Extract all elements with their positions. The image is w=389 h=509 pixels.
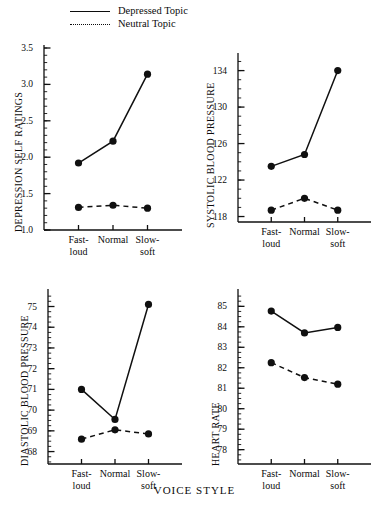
data-point <box>75 159 82 166</box>
plot-area-diastolic-blood-pressure <box>40 288 188 470</box>
chart-panel-systolic-blood-pressure: 118122126130134Fast- loudNormalSlow- sof… <box>238 56 371 222</box>
y-tick-label: 81 <box>197 383 227 393</box>
data-point <box>75 204 82 211</box>
data-point <box>111 416 118 423</box>
data-point <box>334 207 341 214</box>
y-tick-label: 134 <box>197 66 227 76</box>
y-tick-label: 75 <box>7 302 37 312</box>
data-point <box>334 324 341 331</box>
data-point <box>268 307 275 314</box>
data-point <box>268 163 275 170</box>
data-point <box>145 430 152 437</box>
plot-area-depression-self-ratings <box>36 44 188 236</box>
legend-key-depressed-icon <box>68 6 112 16</box>
data-point <box>301 374 308 381</box>
plot-area-heart-rate <box>230 288 377 470</box>
data-point <box>268 207 275 214</box>
data-point <box>301 329 308 336</box>
chart-panel-depression-self-ratings: 1.01.52.02.53.03.5Fast- loudNormalSlow- … <box>44 48 182 230</box>
y-tick-label: 83 <box>197 342 227 352</box>
y-tick-label: 3.0 <box>3 79 33 89</box>
y-tick-label: 85 <box>197 301 227 311</box>
data-point <box>144 205 151 212</box>
x-tick-label: Slow- soft <box>118 234 178 257</box>
data-point <box>334 381 341 388</box>
data-point <box>334 67 341 74</box>
data-point <box>78 436 85 443</box>
data-point <box>109 138 116 145</box>
chart-panel-diastolic-blood-pressure: 6869707172737475Fast- loudNormalSlow- so… <box>48 292 182 464</box>
series-line-depressed-topic <box>79 74 148 163</box>
legend-label-depressed: Depressed Topic <box>112 5 188 17</box>
y-axis-title-systolic-blood-pressure: SYSTOLIC BLOOD PRESSURE <box>206 82 216 228</box>
legend-label-neutral: Neutral Topic <box>112 18 176 30</box>
plot-area-systolic-blood-pressure <box>230 52 377 228</box>
legend-item-neutral: Neutral Topic <box>68 17 248 30</box>
y-tick-label: 3.5 <box>3 43 33 53</box>
data-point <box>268 359 275 366</box>
y-axis-title-heart-rate: HEART RATE <box>211 402 221 466</box>
figure-xlabel: VOICE STYLE <box>0 484 389 496</box>
x-tick-label: Slow- soft <box>308 226 368 249</box>
series-line-depressed-topic <box>82 304 149 419</box>
y-axis-title-diastolic-blood-pressure: DIASTOLIC BLOOD PRESSURE <box>20 315 30 466</box>
data-point <box>301 151 308 158</box>
y-tick-label: 82 <box>197 363 227 373</box>
data-point <box>301 195 308 202</box>
legend-key-neutral-icon <box>68 19 112 29</box>
y-axis-title-depression-self-ratings: DEPRESSION SELF RATINGS <box>14 92 24 232</box>
data-point <box>109 202 116 209</box>
legend-item-depressed: Depressed Topic <box>68 4 248 17</box>
chart-legend: Depressed Topic Neutral Topic <box>68 4 248 30</box>
data-point <box>144 71 151 78</box>
figure-root: Depressed Topic Neutral Topic 1.01.52.02… <box>0 0 389 509</box>
chart-panel-heart-rate: 7879808182838485Fast- loudNormalSlow- so… <box>238 292 371 464</box>
data-point <box>111 426 118 433</box>
y-tick-label: 84 <box>197 322 227 332</box>
data-point <box>145 301 152 308</box>
data-point <box>78 386 85 393</box>
